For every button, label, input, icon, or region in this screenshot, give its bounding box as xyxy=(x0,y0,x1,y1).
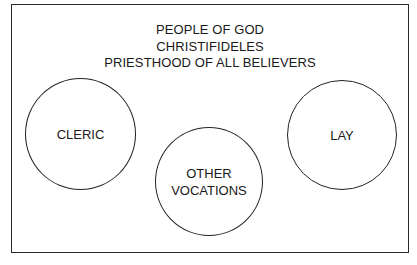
circle-label-vocations: VOCATIONS xyxy=(171,182,247,199)
circle-label-cleric: CLERIC xyxy=(57,126,105,143)
title-line-priesthood: PRIESTHOOD OF ALL BELIEVERS xyxy=(12,55,408,72)
title-line-christifideles: CHRISTIFIDELES xyxy=(12,39,408,56)
circle-lay: LAY xyxy=(287,80,397,190)
circle-cleric: CLERIC xyxy=(25,78,136,190)
title-line-people-of-god: PEOPLE OF GOD xyxy=(12,22,408,39)
circle-label-lay: LAY xyxy=(330,127,354,144)
circle-other-vocations: OTHER VOCATIONS xyxy=(155,127,263,236)
diagram-title: PEOPLE OF GOD CHRISTIFIDELES PRIESTHOOD … xyxy=(12,22,408,72)
circle-label-other: OTHER xyxy=(171,165,247,182)
